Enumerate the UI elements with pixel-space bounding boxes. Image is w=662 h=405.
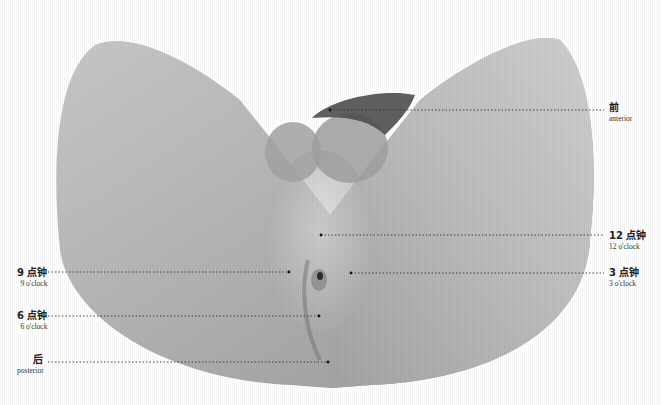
point-marker-12-oclock — [320, 234, 323, 237]
label-en: 9 o'clock — [17, 280, 47, 288]
point-marker-posterior — [327, 361, 330, 364]
label-en: anterior — [609, 115, 632, 123]
label-3-oclock: 3 点钟 3 o'clock — [609, 268, 639, 288]
label-6-oclock: 6 点钟 6 o'clock — [17, 311, 47, 331]
label-zh: 前 — [609, 103, 632, 113]
label-en: 12 o'clock — [609, 243, 646, 251]
label-anterior: 前 anterior — [609, 103, 632, 123]
label-zh: 3 点钟 — [609, 268, 639, 278]
label-en: 3 o'clock — [609, 280, 639, 288]
label-en: 6 o'clock — [17, 323, 47, 331]
label-en: posterior — [17, 367, 43, 375]
point-marker-6-oclock — [318, 315, 321, 318]
label-zh: 9 点钟 — [17, 268, 47, 278]
label-12-oclock: 12 点钟 12 o'clock — [609, 231, 646, 251]
label-9-oclock: 9 点钟 9 o'clock — [17, 268, 47, 288]
anatomical-diagram — [0, 0, 662, 405]
point-marker-3-oclock — [350, 272, 353, 275]
label-zh: 12 点钟 — [609, 231, 646, 241]
label-posterior: 后 posterior — [17, 355, 43, 375]
body-silhouette — [0, 0, 662, 405]
label-zh: 后 — [17, 355, 43, 365]
point-marker-anterior — [329, 109, 332, 112]
point-marker-9-oclock — [288, 271, 291, 274]
label-zh: 6 点钟 — [17, 311, 47, 321]
